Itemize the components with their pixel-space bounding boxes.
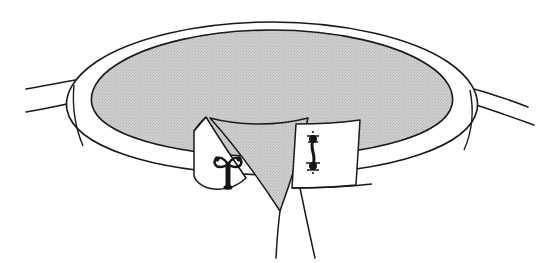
right-cutaway-panel xyxy=(292,120,360,188)
illustration-canvas xyxy=(0,0,546,263)
anchor-foot xyxy=(224,186,232,189)
anchor-centre-knob xyxy=(226,164,230,168)
anchor-left-knob xyxy=(215,157,219,161)
anchor-right-knob xyxy=(237,157,241,161)
figure-root: Line-art cut-away illustration of a shad… xyxy=(0,0,546,263)
